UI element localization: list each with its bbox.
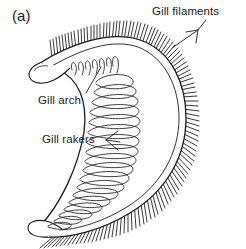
- gill-arch-illustration: [0, 0, 246, 249]
- leader-gill-filaments: [172, 20, 206, 48]
- panel-label: (a): [12, 8, 31, 23]
- gill-arch-figure: (a) Gill filaments Gill arch Gill rakers: [0, 0, 246, 249]
- label-gill-filaments: Gill filaments: [152, 6, 219, 18]
- label-gill-arch: Gill arch: [38, 95, 81, 107]
- label-gill-rakers: Gill rakers: [42, 134, 95, 146]
